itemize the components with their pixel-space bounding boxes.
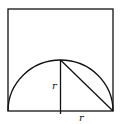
diagonal-chord-line bbox=[61, 60, 114, 111]
horizontal-radius-label: r bbox=[79, 112, 85, 123]
geometry-diagram: r r bbox=[0, 0, 120, 124]
vertical-radius-label: r bbox=[52, 80, 58, 91]
